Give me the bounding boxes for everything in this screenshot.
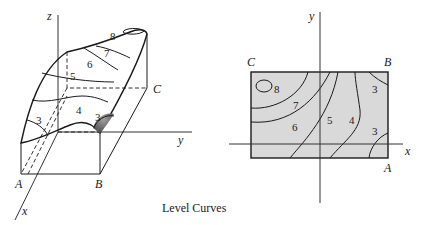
corner-label-b: B [95,177,103,191]
figure-caption: Level Curves [162,201,227,215]
y-axis-label: y [177,133,184,147]
surface-3d-plot: 8 7 6 5 4 3 3 z y x A B C [14,9,192,220]
level-label-6: 6 [87,58,93,70]
level-label-5: 5 [327,114,333,126]
corner-label-b: B [384,55,392,69]
level-curve-5 [32,96,108,102]
x-axis-label: x [404,144,411,158]
level-curve-8 [96,46,130,58]
level-curves-figure: 8 7 6 5 4 3 3 z y x A B C 8 7 6 5 [0,0,422,225]
level-label-4: 4 [349,114,355,126]
contour-map-plot: 8 7 6 5 4 3 3 y x C B A [229,9,411,203]
level-label-6: 6 [292,121,298,133]
level-label-3-left: 3 [36,114,42,126]
level-label-8: 8 [274,83,280,95]
level-label-3-bottom: 3 [372,125,378,137]
corner-label-a: A [383,161,392,175]
level-label-3-saddle: 3 [95,111,101,123]
level-label-7: 7 [293,99,299,111]
level-label-5: 5 [70,70,76,82]
corner-label-c: C [247,55,256,69]
x-axis-label: x [21,204,28,218]
box-front [21,133,100,174]
level-label-7: 7 [104,47,110,59]
corner-label-a: A [14,177,23,191]
level-label-4: 4 [76,104,82,116]
corner-label-c: C [153,82,162,96]
level-label-8: 8 [110,30,116,42]
level-label-3-top: 3 [372,83,378,95]
z-axis-label: z [46,9,52,23]
y-axis-label: y [308,9,315,23]
level-curve-6 [42,73,114,82]
